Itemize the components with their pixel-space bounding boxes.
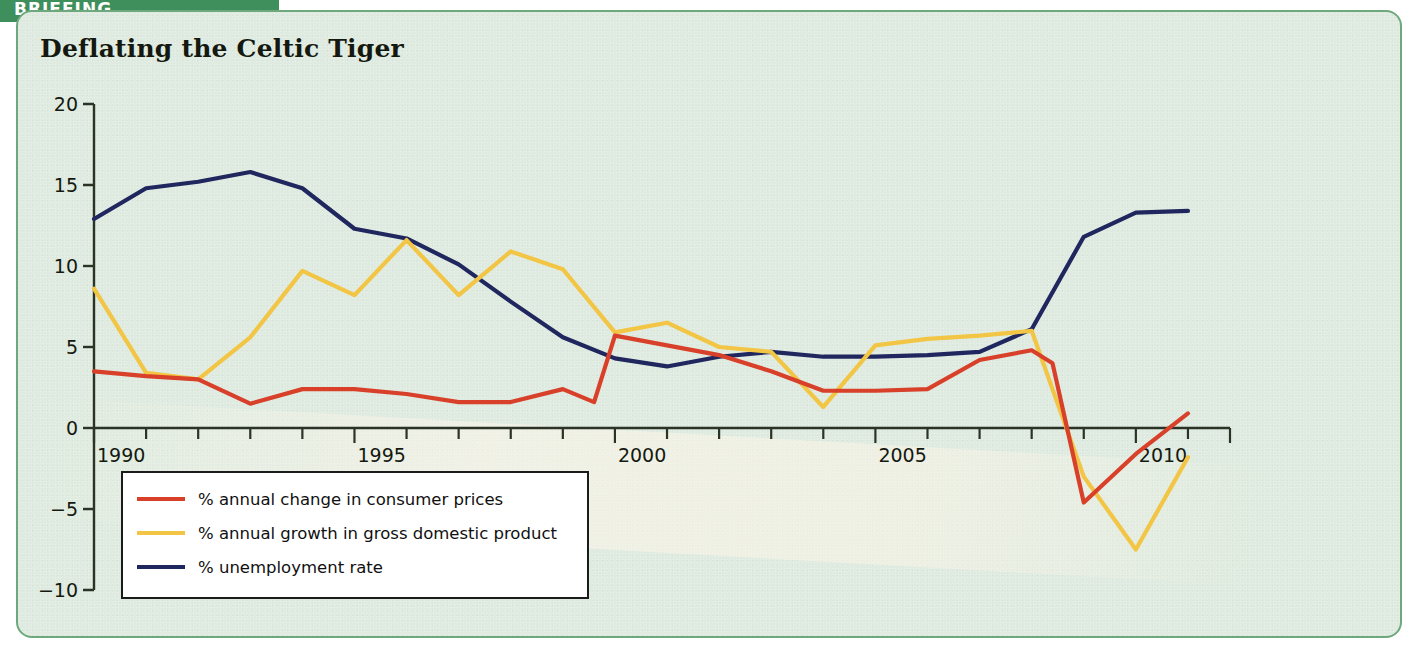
y-tick-label: 5 — [66, 336, 78, 358]
x-tick-label: 2000 — [618, 444, 666, 466]
legend-item-gdp-growth: % annual growth in gross domestic produc… — [133, 516, 571, 550]
chart-legend: % annual change in consumer prices % ann… — [121, 471, 589, 599]
legend-label-consumer-prices: % annual change in consumer prices — [198, 490, 503, 509]
y-tick-label: 15 — [54, 174, 78, 196]
y-tick-label: −5 — [50, 498, 78, 520]
x-axis-ticks: 19901995200020052010 — [94, 428, 1230, 466]
series-line-unemployment — [94, 172, 1188, 366]
x-tick-label: 1990 — [97, 444, 145, 466]
legend-swatch-gdp-growth — [137, 531, 185, 535]
screenshot-root: BRIEFING Deflating the Celtic Tiger −10−… — [0, 0, 1419, 648]
y-tick-label: 10 — [54, 255, 78, 277]
x-tick-label: 2005 — [878, 444, 926, 466]
y-tick-label: −10 — [38, 579, 78, 601]
legend-swatch-consumer-prices — [137, 497, 185, 501]
legend-item-unemployment: % unemployment rate — [133, 550, 571, 584]
legend-swatch-unemployment — [137, 565, 185, 569]
x-tick-label: 1995 — [357, 444, 405, 466]
legend-label-unemployment: % unemployment rate — [198, 558, 383, 577]
chart-panel: Deflating the Celtic Tiger −10−505101520… — [16, 10, 1402, 638]
y-tick-label: 20 — [54, 93, 78, 115]
legend-label-gdp-growth: % annual growth in gross domestic produc… — [198, 524, 557, 543]
legend-item-consumer-prices: % annual change in consumer prices — [133, 482, 571, 516]
y-tick-label: 0 — [66, 417, 78, 439]
y-axis-ticks: −10−505101520 — [38, 93, 94, 601]
